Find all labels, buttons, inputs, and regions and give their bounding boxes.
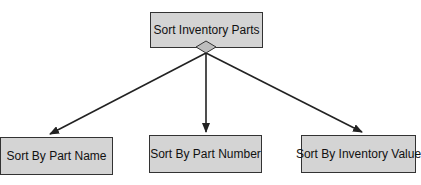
child-label: Sort By Part Name bbox=[6, 149, 106, 163]
child-label: Sort By Inventory Value bbox=[296, 147, 421, 161]
arrow-to-inventory-value bbox=[206, 53, 362, 132]
child-box-inventory-value: Sort By Inventory Value bbox=[301, 135, 416, 173]
root-label: Sort Inventory Parts bbox=[153, 23, 259, 37]
child-label: Sort By Part Number bbox=[150, 147, 261, 161]
child-box-part-name: Sort By Part Name bbox=[0, 137, 113, 175]
child-box-part-number: Sort By Part Number bbox=[149, 135, 262, 173]
arrow-to-part-name bbox=[50, 53, 206, 134]
root-box: Sort Inventory Parts bbox=[150, 12, 263, 48]
